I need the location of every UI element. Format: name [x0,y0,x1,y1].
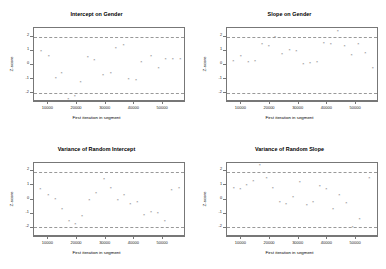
x-tick-label: 20000 [70,105,81,110]
y-tick-label: 0 [220,196,222,201]
x-tick-label: 10000 [42,240,53,245]
x-tick-mark [240,236,241,239]
reference-line [227,93,377,94]
x-tick-label: 50000 [156,240,167,245]
plot-area [33,27,185,101]
panel-title: Slope on Gender [193,12,386,17]
x-tick-label: 10000 [42,105,53,110]
data-point [322,42,325,45]
y-axis-line [226,27,227,101]
data-point [309,62,312,65]
reference-line [34,172,184,173]
data-point [54,198,57,201]
data-point [350,54,353,57]
data-point [232,187,235,190]
y-axis-title: Z-score [202,191,208,206]
x-tick-label: 50000 [349,105,360,110]
data-point [371,67,374,70]
y-tick-mark [223,227,226,228]
y-tick-mark [30,213,33,214]
data-point [295,50,298,53]
data-point [267,45,270,48]
data-point [60,72,63,75]
reference-line [34,227,184,228]
data-point [114,47,117,50]
data-point [164,58,167,61]
y-tick-mark [223,64,226,65]
data-point [247,61,250,64]
data-point [47,55,50,58]
y-axis-line [33,27,34,101]
x-tick-mark [76,236,77,239]
x-tick-label: 50000 [349,240,360,245]
data-point [163,220,166,223]
data-point [364,52,367,55]
y-tick-mark [223,50,226,51]
x-tick-mark [298,236,299,239]
data-point [345,202,348,205]
x-tick-label: 30000 [292,240,303,245]
data-point [245,184,248,187]
panel-title: Variance of Random Intercept [0,147,193,152]
y-tick-mark [30,227,33,228]
data-point [338,194,341,197]
reference-line [227,227,377,228]
y-tick-label: 2 [220,167,222,172]
data-point [73,95,76,98]
plot-grid: Intercept on Gender Z-score First iterat… [0,0,386,269]
data-point [281,53,284,56]
x-tick-mark [269,101,270,104]
x-tick-label: 40000 [128,240,139,245]
data-point [157,67,160,70]
data-point [278,201,281,204]
data-point [329,43,332,46]
y-tick-label: -2 [26,90,29,95]
data-point [86,56,89,59]
y-tick-label: -1 [26,76,29,81]
x-tick-mark [298,101,299,104]
y-tick-label: 2 [27,33,29,38]
y-tick-label: -2 [219,90,222,95]
data-point [258,164,261,167]
x-axis-title: First iteration in segment [0,250,193,256]
y-tick-label: -2 [219,224,222,229]
data-point [171,58,174,61]
panel-title: Variance of Random Slope [193,147,386,152]
data-point [93,59,96,62]
y-tick-mark [30,50,33,51]
y-tick-mark [30,170,33,171]
x-tick-mark [162,236,163,239]
data-point [127,78,130,81]
y-axis-line [226,162,227,236]
y-tick-label: -1 [219,76,222,81]
data-point [47,194,50,197]
y-tick-label: -1 [26,210,29,215]
y-tick-mark [30,64,33,65]
data-point [336,30,339,33]
y-tick-mark [223,213,226,214]
y-tick-label: 2 [220,33,222,38]
y-tick-mark [223,36,226,37]
data-point [291,196,294,199]
y-axis-title: Z-score [9,191,15,206]
data-point [357,43,360,46]
data-point [109,72,112,75]
data-point [123,194,126,197]
data-point [252,180,255,183]
x-tick-mark [133,236,134,239]
data-point [150,55,153,58]
y-tick-label: 1 [27,47,29,52]
x-tick-label: 10000 [235,105,246,110]
x-axis-title: First iteration in segment [193,250,386,256]
data-point [102,74,105,77]
y-tick-mark [30,78,33,79]
y-tick-label: -1 [219,210,222,215]
data-point [135,79,138,82]
y-tick-mark [30,92,33,93]
data-point [358,218,361,221]
data-point [136,201,139,204]
data-point [140,61,143,64]
plot-area [33,162,185,236]
x-tick-label: 40000 [321,105,332,110]
panel-intercept-on-gender: Intercept on Gender Z-score First iterat… [0,0,193,135]
